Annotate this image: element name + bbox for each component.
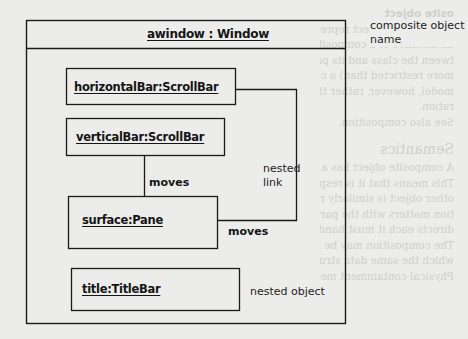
moves-label-nested: moves	[228, 225, 268, 238]
composite-name-annotation-line1: composite object	[370, 19, 464, 32]
moves-label-vertical: moves	[149, 176, 189, 189]
nested-link-annotation-line2: link	[263, 176, 282, 189]
nested-link-line	[218, 90, 297, 221]
composite-name-annotation-line2: name	[370, 33, 401, 46]
nested-link-annotation: nested link	[263, 162, 301, 190]
surface-pane-name: surface:Pane	[82, 213, 163, 227]
horizontal-bar-name: horizontalBar:ScrollBar	[74, 80, 218, 94]
composite-object-name: awindow : Window	[147, 27, 269, 41]
vertical-bar-name: verticalBar:ScrollBar	[76, 130, 204, 144]
nested-object-annotation: nested object	[250, 285, 325, 299]
title-bar-name: title:TitleBar	[82, 282, 160, 296]
nested-link-annotation-line1: nested	[263, 162, 301, 175]
composite-name-annotation: composite object name	[370, 19, 468, 47]
